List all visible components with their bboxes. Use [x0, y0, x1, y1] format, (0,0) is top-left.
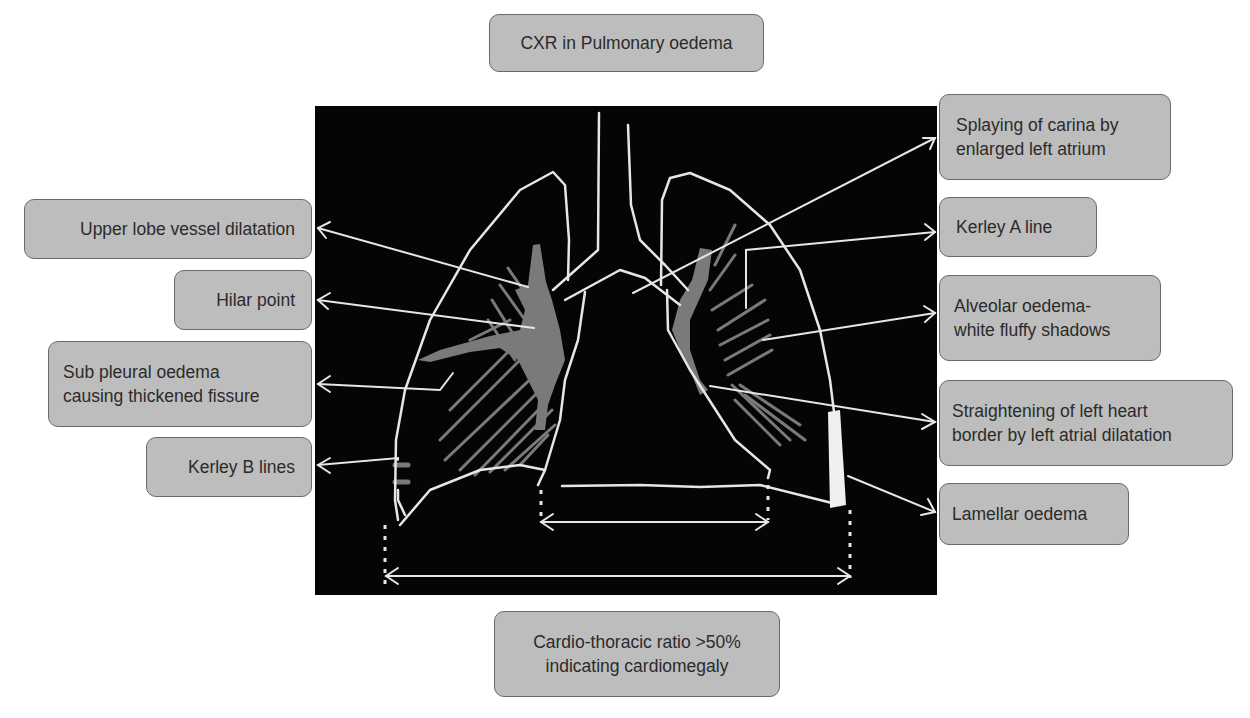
label-splaying-of-carina: Splaying of carina by enlarged left atri…: [939, 94, 1171, 180]
diagram-title: CXR in Pulmonary oedema: [520, 31, 732, 55]
label-sub-pleural-oedema: Sub pleural oedema causing thickened fis…: [48, 341, 312, 427]
label-kerley-b-lines: Kerley B lines: [146, 437, 312, 497]
label-kerley-a-line: Kerley A line: [939, 197, 1097, 257]
title-box: CXR in Pulmonary oedema: [489, 14, 764, 72]
label-lamellar-oedema: Lamellar oedema: [939, 483, 1129, 545]
chest-xray-sketch: [315, 106, 937, 595]
label-alveolar-oedema: Alveolar oedema- white fluffy shadows: [939, 275, 1161, 361]
label-hilar-point: Hilar point: [174, 270, 312, 330]
label-straightening-left-heart-border: Straightening of left heart border by le…: [939, 380, 1233, 466]
label-cardio-thoracic-ratio: Cardio-thoracic ratio >50% indicating ca…: [494, 611, 780, 697]
label-upper-lobe-vessel-dilatation: Upper lobe vessel dilatation: [24, 199, 312, 259]
